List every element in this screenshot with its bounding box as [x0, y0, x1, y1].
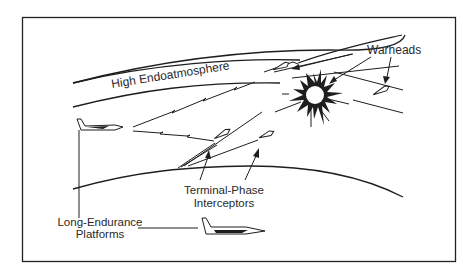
missile-defense-diagram: High Endoatmosphere: [0, 0, 476, 276]
interceptors-label-line2: Interceptors: [194, 197, 255, 209]
platforms-label-line1: Long-Endurance: [57, 216, 142, 228]
warheads-label: Warheads: [367, 43, 421, 57]
interceptors-label-line1: Terminal-Phase: [184, 184, 264, 196]
platforms-label-line2: Platforms: [76, 228, 125, 240]
